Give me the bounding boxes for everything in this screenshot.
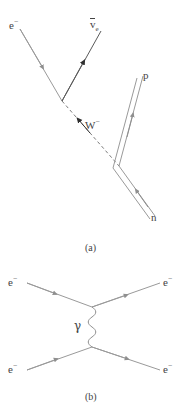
figure-canvas: e− ve W− p n (a) e− e− e− e− γ (b) xyxy=(0,0,188,410)
label-electron-a: e− xyxy=(9,18,18,31)
label-electron-out-top-b: e− xyxy=(163,275,172,288)
nucleon-double-line-a xyxy=(113,76,155,219)
label-electron-out-bottom-b: e− xyxy=(163,362,172,375)
w-boson-propagator-a xyxy=(62,101,119,166)
label-antineutrino-a: ve xyxy=(90,19,99,33)
label-w-boson-a: W− xyxy=(85,118,100,131)
electron-out-bottom-line-b xyxy=(92,347,160,370)
electron-in-top-line-b xyxy=(27,283,92,307)
label-photon-b: γ xyxy=(74,320,81,332)
electron-line-a xyxy=(20,29,62,101)
diagram-lines xyxy=(0,0,188,410)
electron-out-top-line-b xyxy=(92,283,160,307)
photon-propagator-b xyxy=(88,307,96,347)
label-proton-a: p xyxy=(143,70,149,81)
caption-panel-a: (a) xyxy=(85,243,96,253)
label-neutron-a: n xyxy=(151,212,157,223)
label-electron-in-top-b: e− xyxy=(8,275,17,288)
label-electron-in-bottom-b: e− xyxy=(8,362,17,375)
electron-in-bottom-line-b xyxy=(27,347,92,370)
antineutrino-line-a xyxy=(62,31,101,101)
caption-panel-b: (b) xyxy=(85,392,97,402)
